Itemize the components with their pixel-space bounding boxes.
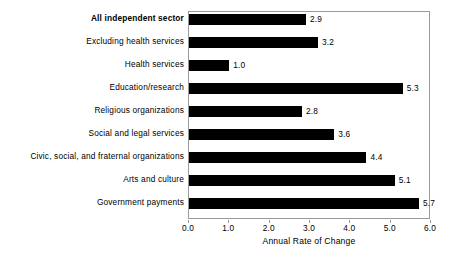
x-axis-tick-labels: 0.01.02.03.04.05.06.0 xyxy=(0,223,450,235)
bar xyxy=(189,129,334,140)
bar xyxy=(189,175,395,186)
x-tick-label: 3.0 xyxy=(289,223,329,234)
category-axis-labels: All independent sectorExcluding health s… xyxy=(0,11,184,219)
bar-value-label: 3.2 xyxy=(322,37,334,48)
category-label: Religious organizations xyxy=(0,105,184,116)
x-tick-label: 0.0 xyxy=(168,223,208,234)
bar-value-label: 4.4 xyxy=(370,152,382,163)
bar-value-label: 3.6 xyxy=(338,129,350,140)
category-label: Social and legal services xyxy=(0,128,184,139)
category-label: All independent sector xyxy=(0,13,184,24)
category-label: Education/research xyxy=(0,82,184,93)
category-label: Arts and culture xyxy=(0,174,184,185)
bar-value-label: 5.3 xyxy=(407,83,419,94)
bar xyxy=(189,152,366,163)
category-label: Civic, social, and fraternal organizatio… xyxy=(0,151,184,162)
bar xyxy=(189,198,419,209)
category-label: Excluding health services xyxy=(0,36,184,47)
bar xyxy=(189,106,302,117)
category-label: Government payments xyxy=(0,197,184,208)
x-tick-label: 5.0 xyxy=(370,223,410,234)
bar-chart-figure: All independent sectorExcluding health s… xyxy=(0,0,450,262)
bar-value-label: 1.0 xyxy=(233,60,245,71)
bar-value-label: 5.1 xyxy=(399,175,411,186)
bar xyxy=(189,37,318,48)
x-tick-label: 4.0 xyxy=(329,223,369,234)
x-axis-title: Annual Rate of Change xyxy=(188,236,430,247)
category-label: Health services xyxy=(0,59,184,70)
plot-area: 2.93.21.05.32.83.64.45.15.7 xyxy=(188,11,430,219)
x-tick-label: 6.0 xyxy=(410,223,450,234)
bar xyxy=(189,14,306,25)
x-tick-label: 2.0 xyxy=(249,223,289,234)
bar xyxy=(189,83,403,94)
bar xyxy=(189,60,229,71)
bar-value-label: 2.8 xyxy=(306,106,318,117)
bar-value-label: 5.7 xyxy=(423,198,435,209)
x-tick-label: 1.0 xyxy=(208,223,248,234)
bar-value-label: 2.9 xyxy=(310,14,322,25)
plot-inner: 2.93.21.05.32.83.64.45.15.7 xyxy=(189,12,429,218)
